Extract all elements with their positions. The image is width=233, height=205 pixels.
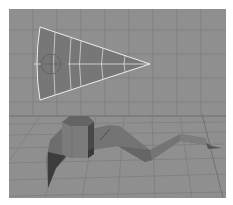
3d-viewport[interactable] [9,9,226,198]
scene [9,9,226,198]
